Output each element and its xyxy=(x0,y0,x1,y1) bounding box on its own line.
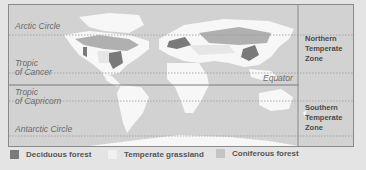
legend-item-coniferous: Coniferous forest xyxy=(216,149,299,158)
tropic-of-cancer-label-line2: of Cancer xyxy=(15,68,52,77)
antarctic-circle-label: Antarctic Circle xyxy=(15,125,72,134)
northern-temperate-zone-label: Northern Temperate Zone xyxy=(305,34,342,64)
arctic-circle-label: Arctic Circle xyxy=(15,22,60,31)
legend-item-deciduous: Deciduous forest xyxy=(10,150,91,159)
deciduous-swatch xyxy=(10,150,19,159)
southern-temperate-zone-label: Southern Temperate Zone xyxy=(305,103,342,133)
legend-item-grassland: Temperate grassland xyxy=(108,150,204,159)
equator-label: Equator xyxy=(263,74,293,83)
grassland-swatch xyxy=(108,150,117,159)
tropic-of-capricorn-label-line2: of Capricorn xyxy=(15,97,61,106)
coniferous-swatch xyxy=(216,149,225,158)
map-panel: Arctic Circle Tropic of Cancer Equator T… xyxy=(8,4,354,147)
legend: Deciduous forest Temperate grassland Con… xyxy=(8,150,358,164)
